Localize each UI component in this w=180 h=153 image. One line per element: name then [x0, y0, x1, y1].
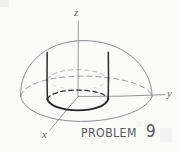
axis-x-cylinder-crossing: [68, 103, 73, 108]
hemisphere-base-front-arc: [21, 96, 153, 121]
hemisphere-dome-arc: [20, 41, 152, 97]
hemisphere-base-back-arc: [21, 76, 152, 96]
cylinder-base-front-arc: [47, 99, 108, 110]
caption-label: PROBLEM: [81, 127, 137, 139]
axis-label-y: y: [167, 88, 172, 99]
axis-x-line: [50, 97, 78, 130]
sketch-canvas: z y x PROBLEM 9: [0, 0, 180, 153]
axis-label-z: z: [74, 7, 78, 18]
problem-number: 9: [146, 123, 156, 140]
figure-caption: PROBLEM 9: [81, 124, 156, 140]
axis-label-x: x: [42, 129, 47, 140]
